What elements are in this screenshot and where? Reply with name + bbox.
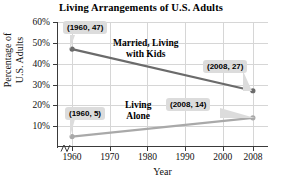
y-axis-tick-label: 20% bbox=[33, 100, 50, 110]
series-label-line2: Alone bbox=[125, 111, 151, 122]
x-axis-tick bbox=[72, 147, 73, 151]
y-axis-tick-label: 60% bbox=[33, 17, 50, 27]
x-axis-tick-label: 1960 bbox=[63, 152, 82, 162]
series-line-living-alone bbox=[72, 118, 253, 137]
y-axis-title: Percentage of U.S. Adults bbox=[2, 5, 28, 115]
x-axis-tick-label: 2000 bbox=[213, 152, 232, 162]
callout-1960-47: (1960, 47) bbox=[63, 21, 107, 34]
callout-2008-27: (2008, 27) bbox=[203, 60, 247, 73]
x-axis-tick-label: 1990 bbox=[176, 152, 195, 162]
y-axis-title-line2: U.S. Adults bbox=[14, 5, 26, 115]
y-axis-title-line1: Percentage of bbox=[2, 5, 14, 115]
y-axis-tick-label: 40% bbox=[33, 59, 50, 69]
callout-1960-5: (1960, 5) bbox=[65, 107, 105, 120]
series-label-line2: with Kids bbox=[113, 49, 178, 60]
series-label-line1: Living bbox=[125, 100, 151, 111]
y-axis-tick-label: 30% bbox=[33, 80, 50, 90]
chart-container: Living Arrangements of U.S. Adults Perce… bbox=[0, 0, 282, 185]
plot-area: 10% 20% 30% 40% 50% 60% 1960 1970 1980 1… bbox=[57, 22, 268, 147]
callout-tail-1960-5 bbox=[70, 119, 75, 137]
series-label-married-living-with-kids: Married, Living with Kids bbox=[113, 38, 178, 60]
x-axis-tick-label: 1970 bbox=[100, 152, 119, 162]
x-axis-tick bbox=[223, 147, 224, 151]
chart-title: Living Arrangements of U.S. Adults bbox=[0, 2, 282, 13]
callout-2008-14: (2008, 14) bbox=[166, 98, 210, 111]
series-label-living-alone: Living Alone bbox=[125, 100, 151, 122]
x-axis-title: Year bbox=[55, 166, 270, 177]
x-axis-tick-label: 1980 bbox=[138, 152, 157, 162]
callout-tail-2008-27 bbox=[243, 71, 252, 91]
callout-tail-2008-14 bbox=[220, 108, 255, 118]
x-axis-tick-label: 2008 bbox=[243, 152, 262, 162]
x-axis-tick bbox=[253, 147, 254, 151]
callout-tail-1960-47 bbox=[70, 35, 75, 49]
series-label-line1: Married, Living bbox=[113, 38, 178, 49]
x-axis-tick bbox=[147, 147, 148, 151]
x-axis-tick bbox=[110, 147, 111, 151]
x-axis-tick bbox=[185, 147, 186, 151]
y-axis-tick-label: 50% bbox=[33, 38, 50, 48]
y-axis-tick-label: 10% bbox=[33, 121, 50, 131]
